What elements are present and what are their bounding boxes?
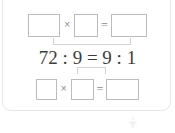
screenshot-root: × = 72 : 9 = 9 : 1 × = ⸎ bbox=[0, 0, 175, 133]
bottom-row-input-box-1[interactable] bbox=[36, 79, 57, 100]
multiplication-icon: × bbox=[60, 20, 74, 30]
equals-icon: = bbox=[94, 83, 107, 95]
bottom-equation-row: × = bbox=[0, 76, 175, 102]
top-row-input-box-1[interactable] bbox=[28, 14, 60, 37]
top-connector-bracket bbox=[53, 38, 131, 45]
proportion-equation: 72 : 9 = 9 : 1 bbox=[39, 48, 136, 67]
proportion-exercise: × = 72 : 9 = 9 : 1 × = bbox=[0, 0, 175, 111]
watermark-mark: ⸎ bbox=[128, 119, 136, 128]
bottom-row-input-box-3[interactable] bbox=[106, 79, 139, 100]
equals-icon: = bbox=[98, 19, 111, 31]
top-row-input-box-2[interactable] bbox=[74, 14, 98, 37]
top-equation-row: × = bbox=[0, 12, 175, 38]
middle-equation-row: 72 : 9 = 9 : 1 bbox=[0, 46, 175, 68]
bottom-connector-bracket bbox=[77, 67, 106, 74]
bottom-row-input-box-2[interactable] bbox=[71, 79, 94, 100]
top-row-input-box-3[interactable] bbox=[111, 14, 147, 37]
multiplication-icon: × bbox=[57, 84, 71, 94]
